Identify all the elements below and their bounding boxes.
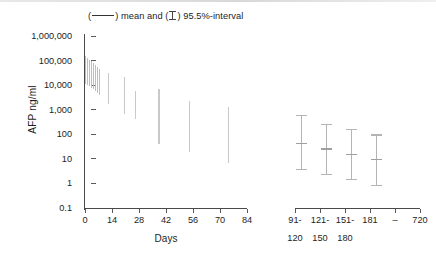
months-x-axis-tick-label: 720 <box>400 215 436 225</box>
error-bar-upper-cap <box>346 129 357 130</box>
y-axis-tick-mark <box>91 134 96 135</box>
y-axis-tick-label: 1,000 <box>14 105 72 115</box>
error-bar-lower-cap <box>371 185 382 186</box>
months-x-axis-tick-mark <box>345 209 346 213</box>
days-x-axis-tick-mark <box>112 209 113 213</box>
y-axis-tick-label: 100 <box>14 129 72 139</box>
months-x-axis-line <box>295 208 420 209</box>
error-bar-lower-cap <box>346 179 357 180</box>
y-axis-tick-mark <box>91 158 96 159</box>
y-axis-tick-label: 1,000,000 <box>14 31 72 41</box>
months-x-axis-tick-mark <box>370 209 371 213</box>
mean-marker <box>371 159 382 160</box>
chart-figure: () mean and () 95.5%-interval AFP ng/ml … <box>0 0 436 257</box>
legend-mean-text: ) mean and ( <box>115 11 168 21</box>
interval-bar <box>189 101 190 152</box>
x-axis-title: Days <box>106 233 226 244</box>
y-axis-tick-mark <box>91 183 96 184</box>
y-axis-tick-label: 100,000 <box>14 56 72 66</box>
mean-marker <box>321 148 332 149</box>
mean-marker <box>296 143 307 144</box>
days-x-axis-tick-mark <box>85 209 86 213</box>
y-axis-tick-label: 1 <box>14 178 72 188</box>
months-x-axis-tick-mark <box>320 209 321 213</box>
days-x-axis-tick-mark <box>166 209 167 213</box>
legend-interval-text: ) 95.5%-interval <box>177 11 243 21</box>
months-x-axis-tick-mark <box>395 209 396 213</box>
error-bar-upper-cap <box>371 134 382 135</box>
days-x-axis-tick-mark <box>193 209 194 213</box>
y-axis-tick-mark <box>91 36 96 37</box>
interval-bar <box>99 69 100 95</box>
error-bar-upper-cap <box>321 124 332 125</box>
interval-bar <box>228 107 229 163</box>
error-bar-lower-cap <box>321 174 332 175</box>
days-x-axis-tick-label: 84 <box>227 215 267 225</box>
interval-bar <box>135 91 136 120</box>
legend-paren-open: ( <box>88 11 91 21</box>
mean-line-icon <box>92 15 114 16</box>
error-bar-lower-cap <box>296 169 307 170</box>
y-axis-tick-label: 10 <box>14 154 72 164</box>
interval-bar <box>108 73 109 104</box>
months-x-axis-tick-mark <box>295 209 296 213</box>
interval-bar-icon <box>169 11 176 20</box>
mean-marker <box>346 154 357 155</box>
y-axis-tick-label: 10,000 <box>14 80 72 90</box>
y-axis-tick-mark <box>91 109 96 110</box>
days-x-axis-tick-mark <box>139 209 140 213</box>
y-axis-tick-label: 0.1 <box>14 203 72 213</box>
error-bar-upper-cap <box>296 115 307 116</box>
days-x-axis-tick-mark <box>247 209 248 213</box>
chart-legend: () mean and () 95.5%-interval <box>88 11 298 21</box>
y-axis-tick-group: 1,000,000100,00010,0001,0001001010.1 <box>12 0 72 257</box>
interval-bar <box>158 89 159 144</box>
months-x-axis-tick-mark <box>420 209 421 213</box>
days-x-axis-tick-mark <box>220 209 221 213</box>
months-x-axis-tick-label-second-line: 180 <box>325 233 365 243</box>
interval-bar <box>124 77 125 115</box>
